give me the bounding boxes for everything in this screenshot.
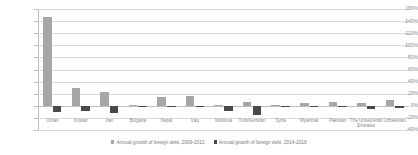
y-axis-tick (34, 70, 38, 71)
bar (281, 106, 290, 107)
bar (100, 92, 109, 105)
y-axis-tick (34, 57, 38, 58)
bar (243, 102, 252, 106)
gridline (38, 94, 409, 95)
legend-item[interactable]: Annual growth of foreign debt, 2009-2013 (111, 139, 204, 145)
gridline (38, 70, 409, 71)
bar (53, 106, 62, 113)
y-axis-tick-label: 40% (386, 79, 418, 84)
y-axis-tick-label: 0% (386, 103, 418, 108)
y-axis-tick-label: 60% (386, 67, 418, 72)
y-axis-tick (34, 94, 38, 95)
bar (271, 105, 280, 106)
bar (253, 106, 262, 116)
chart-legend: Annual growth of foreign debt, 2009-2013… (0, 139, 418, 145)
bar (310, 106, 319, 107)
bar (367, 106, 376, 109)
legend-swatch-icon (214, 140, 217, 143)
y-axis-tick-label: 160% (386, 6, 418, 11)
bar (157, 97, 166, 106)
bar (72, 88, 81, 106)
bar (196, 106, 205, 107)
y-axis-tick (34, 45, 38, 46)
bar (167, 106, 176, 107)
y-axis-tick-label: 120% (386, 31, 418, 36)
y-axis-tick (34, 106, 38, 107)
y-axis-tick (34, 9, 38, 10)
gridline (38, 21, 409, 22)
plot-top-border (38, 9, 409, 10)
gridline (38, 57, 409, 58)
bar (81, 106, 90, 111)
bar (300, 103, 309, 106)
x-axis-labels: OmanKuwaitIranBulgariaNepalIraqMoldovaTu… (38, 118, 409, 140)
legend-label: Annual growth of foreign debt, 2009-2013 (116, 139, 204, 145)
bar (338, 106, 347, 107)
y-axis-tick-label: 80% (386, 55, 418, 60)
bar (129, 105, 138, 106)
legend-label: Annual growth of foreign debt, 2014-2018 (219, 139, 307, 145)
gridline (38, 45, 409, 46)
y-axis-tick (34, 82, 38, 83)
y-axis-tick (34, 33, 38, 34)
bar (214, 105, 223, 106)
legend-item[interactable]: Annual growth of foreign debt, 2014-2018 (214, 139, 307, 145)
bar (138, 106, 147, 107)
bar (329, 102, 338, 106)
bar (357, 103, 366, 105)
bar (186, 96, 195, 106)
gridline (38, 33, 409, 34)
y-axis-tick-label: 100% (386, 43, 418, 48)
y-axis-tick-label: 20% (386, 91, 418, 96)
bar (43, 17, 52, 106)
legend-swatch-icon (111, 140, 114, 143)
y-axis-tick (34, 21, 38, 22)
plot-area (38, 9, 409, 130)
y-axis-tick-label: 140% (386, 19, 418, 24)
bar (110, 106, 119, 113)
gridline (38, 82, 409, 83)
bar-chart: 160%140%120%100%80%60%40%20%0%-20%-40% O… (0, 0, 418, 155)
bar (224, 106, 233, 111)
x-axis-tick-label: Uzbekistan (374, 118, 415, 123)
